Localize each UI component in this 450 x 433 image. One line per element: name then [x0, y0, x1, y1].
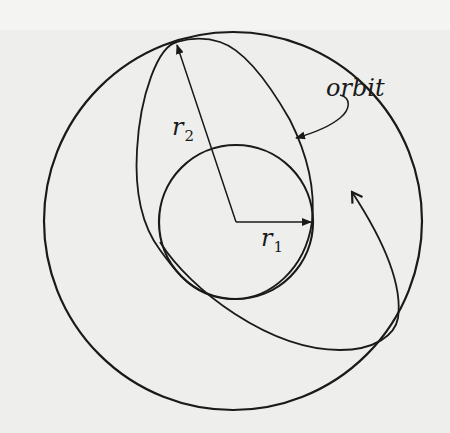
- orbit-diagram: r2 r1 orbit: [0, 0, 450, 433]
- r2-subscript: 2: [184, 127, 194, 145]
- orbit-label: orbit: [326, 74, 385, 102]
- spiral-transfer-path: [160, 192, 399, 350]
- r1-symbol: r: [261, 224, 272, 252]
- r2-label: r2: [172, 113, 193, 141]
- transfer-orbit-ellipse: [137, 39, 313, 299]
- r1-label: r1: [261, 224, 282, 252]
- r1-subscript: 1: [273, 238, 283, 256]
- diagram-svg: [0, 0, 450, 433]
- r2-symbol: r: [172, 113, 183, 141]
